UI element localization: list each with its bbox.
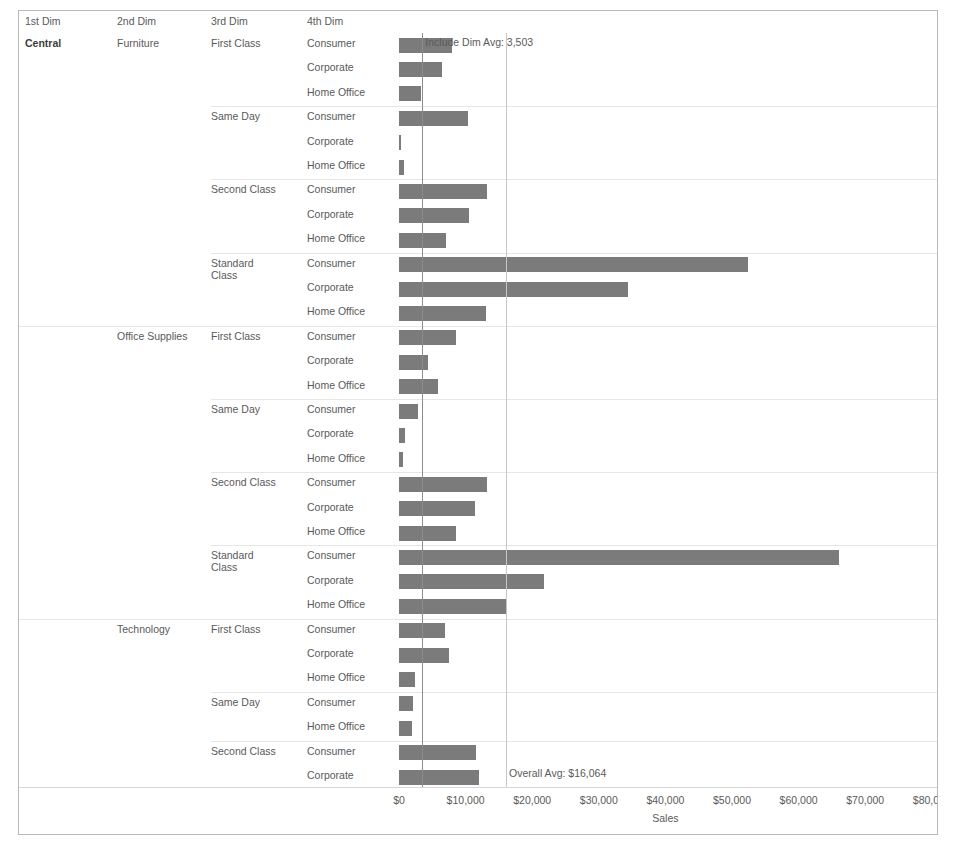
reference-label-include-dim-avg: Include Dim Avg: 3,503 (425, 36, 533, 48)
x-tick-label: $70,000 (846, 794, 884, 806)
x-axis-label: Sales (652, 812, 678, 824)
row-label-3rd-dim: Second Class (211, 183, 276, 195)
x-tick-label: $80,000 (913, 794, 938, 806)
chart-row[interactable]: Home Office (19, 521, 937, 545)
bar[interactable] (399, 404, 418, 419)
bar[interactable] (399, 428, 405, 443)
chart-row[interactable]: Corporate (19, 570, 937, 594)
chart-row[interactable]: Same DayConsumer (19, 692, 937, 716)
chart-row[interactable]: Corporate (19, 350, 937, 374)
chart-plot-area: CentralFurnitureFirst ClassConsumerCorpo… (19, 33, 937, 834)
chart-row[interactable]: Corporate (19, 497, 937, 521)
chart-row[interactable]: Home Office (19, 82, 937, 106)
chart-row[interactable]: Standard ClassConsumer (19, 545, 937, 569)
bar[interactable] (399, 160, 404, 175)
row-label-1st-dim: Central (25, 37, 61, 49)
row-label-4th-dim: Corporate (307, 135, 354, 147)
visualization-frame: 1st Dim 2nd Dim 3rd Dim 4th Dim CentralF… (18, 10, 938, 835)
bar[interactable] (399, 330, 456, 345)
bar[interactable] (399, 526, 456, 541)
row-label-4th-dim: Consumer (307, 37, 355, 49)
row-label-4th-dim: Corporate (307, 427, 354, 439)
chart-row[interactable]: Home Office (19, 716, 937, 740)
row-label-3rd-dim: First Class (211, 37, 261, 49)
chart-row[interactable]: Corporate (19, 204, 937, 228)
bar[interactable] (399, 648, 449, 663)
chart-row[interactable]: Same DayConsumer (19, 106, 937, 130)
bar[interactable] (399, 282, 628, 297)
reference-line-include-dim-avg (422, 33, 423, 799)
bar[interactable] (399, 696, 413, 711)
row-label-3rd-dim: Second Class (211, 476, 276, 488)
chart-row[interactable]: Second ClassConsumer (19, 741, 937, 765)
row-label-3rd-dim: Same Day (211, 696, 260, 708)
x-tick-label: $50,000 (713, 794, 751, 806)
bar[interactable] (399, 379, 438, 394)
bar[interactable] (399, 257, 748, 272)
row-label-3rd-dim: First Class (211, 330, 261, 342)
row-label-4th-dim: Home Office (307, 86, 365, 98)
bar[interactable] (399, 721, 412, 736)
row-label-4th-dim: Consumer (307, 110, 355, 122)
bar[interactable] (399, 452, 403, 467)
row-label-4th-dim: Corporate (307, 647, 354, 659)
chart-row[interactable]: Standard ClassConsumer (19, 253, 937, 277)
bar[interactable] (399, 306, 486, 321)
header-3rd-dim: 3rd Dim (211, 15, 248, 33)
row-label-4th-dim: Consumer (307, 745, 355, 757)
chart-row[interactable]: Corporate (19, 57, 937, 81)
chart-row[interactable]: Corporate (19, 643, 937, 667)
bar[interactable] (399, 745, 476, 760)
chart-row[interactable]: Home Office (19, 667, 937, 691)
chart-row[interactable]: Home Office (19, 228, 937, 252)
x-tick-label: $30,000 (580, 794, 618, 806)
row-label-4th-dim: Corporate (307, 574, 354, 586)
row-label-3rd-dim: Same Day (211, 110, 260, 122)
row-label-4th-dim: Corporate (307, 281, 354, 293)
row-label-4th-dim: Consumer (307, 330, 355, 342)
chart-row[interactable]: Home Office (19, 155, 937, 179)
reference-label-overall-avg: Overall Avg: $16,064 (509, 767, 606, 779)
reference-line-overall-avg (506, 33, 507, 799)
bar[interactable] (399, 477, 487, 492)
bar[interactable] (399, 550, 839, 565)
chart-row[interactable]: Second ClassConsumer (19, 472, 937, 496)
bar[interactable] (399, 672, 415, 687)
x-tick-label: $40,000 (646, 794, 684, 806)
chart-row[interactable]: Home Office (19, 301, 937, 325)
chart-row[interactable]: TechnologyFirst ClassConsumer (19, 619, 937, 643)
bar[interactable] (399, 208, 469, 223)
x-axis: $0$10,000$20,000$30,000$40,000$50,000$60… (19, 787, 937, 834)
chart-row[interactable]: Office SuppliesFirst ClassConsumer (19, 326, 937, 350)
row-label-4th-dim: Home Office (307, 525, 365, 537)
row-label-4th-dim: Consumer (307, 403, 355, 415)
bar[interactable] (399, 111, 468, 126)
bar[interactable] (399, 599, 506, 614)
chart-row[interactable]: Home Office (19, 448, 937, 472)
chart-row[interactable]: Corporate (19, 765, 937, 789)
bar[interactable] (399, 135, 401, 150)
row-label-4th-dim: Home Office (307, 671, 365, 683)
row-label-3rd-dim: Same Day (211, 403, 260, 415)
bar[interactable] (399, 501, 475, 516)
bar[interactable] (399, 574, 544, 589)
row-label-4th-dim: Consumer (307, 549, 355, 561)
bar[interactable] (399, 184, 487, 199)
row-label-4th-dim: Home Office (307, 232, 365, 244)
bar[interactable] (399, 62, 442, 77)
row-label-3rd-dim: First Class (211, 623, 261, 635)
header-4th-dim: 4th Dim (307, 15, 343, 33)
bar[interactable] (399, 86, 421, 101)
chart-row[interactable]: Corporate (19, 131, 937, 155)
row-label-2nd-dim: Technology (117, 623, 170, 635)
row-label-2nd-dim: Furniture (117, 37, 159, 49)
chart-row[interactable]: Same DayConsumer (19, 399, 937, 423)
chart-row[interactable]: Home Office (19, 375, 937, 399)
chart-row[interactable]: Second ClassConsumer (19, 179, 937, 203)
chart-row[interactable]: Corporate (19, 277, 937, 301)
chart-row[interactable]: Corporate (19, 423, 937, 447)
chart-row[interactable]: Home Office (19, 594, 937, 618)
bar[interactable] (399, 770, 479, 785)
bar[interactable] (399, 355, 428, 370)
row-label-4th-dim: Corporate (307, 61, 354, 73)
